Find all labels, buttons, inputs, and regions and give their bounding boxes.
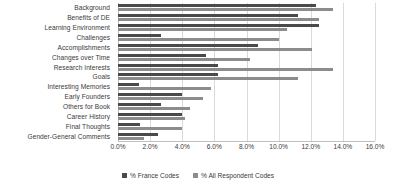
bar-france — [118, 14, 298, 17]
x-tick-label: 16.0% — [366, 143, 385, 150]
bar-row — [118, 23, 375, 33]
category-label: Early Founders — [0, 92, 114, 102]
category-label: Benefits of DE — [0, 13, 114, 23]
bar-france — [118, 103, 161, 106]
bar-row — [118, 13, 375, 23]
x-tick-label: 12.0% — [301, 143, 320, 150]
bar-all-respondents — [118, 87, 211, 90]
bar-row — [118, 131, 375, 141]
bar-france — [118, 113, 182, 116]
category-label: Challenges — [0, 33, 114, 43]
bar-all-respondents — [118, 58, 250, 61]
legend-label: % France Codes — [130, 172, 179, 179]
bar-all-respondents — [118, 127, 182, 130]
legend-item[interactable]: % All Respondent Codes — [193, 172, 274, 179]
bar-all-respondents — [118, 38, 279, 41]
category-label: Learning Environment — [0, 23, 114, 33]
category-axis-labels: BackgroundBenefits of DELearning Environ… — [0, 3, 114, 141]
bar-row — [118, 121, 375, 131]
plot-area — [118, 3, 375, 141]
chart-legend: % France Codes% All Respondent Codes — [0, 172, 396, 179]
bar-france — [118, 34, 161, 37]
bar-france — [118, 93, 182, 96]
gridline — [375, 3, 376, 141]
bar-row — [118, 82, 375, 92]
bar-france — [118, 4, 316, 7]
bar-france — [118, 123, 140, 126]
bar-france — [118, 64, 218, 67]
bar-france — [118, 83, 139, 86]
category-label: Accomplishments — [0, 42, 114, 52]
bar-row — [118, 3, 375, 13]
bar-france — [118, 24, 319, 27]
category-label: Interesting Memories — [0, 82, 114, 92]
bar-france — [118, 44, 258, 47]
x-tick-label: 6.0% — [207, 143, 222, 150]
category-label: Changes over Time — [0, 52, 114, 62]
category-label: Others for Book — [0, 102, 114, 112]
bar-row — [118, 102, 375, 112]
bar-rows — [118, 3, 375, 141]
category-label: Gender-General Comments — [0, 131, 114, 141]
category-label: Career History — [0, 111, 114, 121]
bar-france — [118, 54, 206, 57]
bar-row — [118, 33, 375, 43]
bar-all-respondents — [118, 77, 298, 80]
bar-chart: BackgroundBenefits of DELearning Environ… — [0, 0, 396, 195]
x-tick-label: 2.0% — [143, 143, 158, 150]
legend-item[interactable]: % France Codes — [122, 172, 179, 179]
bar-row — [118, 72, 375, 82]
x-tick-label: 4.0% — [175, 143, 190, 150]
legend-swatch — [122, 173, 127, 178]
bar-row — [118, 62, 375, 72]
x-axis-tick-labels: 0.0%2.0%4.0%6.0%8.0%10.0%12.0%14.0%16.0% — [118, 143, 375, 155]
category-label: Final Thoughts — [0, 121, 114, 131]
bar-row — [118, 111, 375, 121]
bar-all-respondents — [118, 18, 319, 21]
category-label: Research Interests — [0, 62, 114, 72]
x-tick-label: 10.0% — [269, 143, 288, 150]
bar-france — [118, 73, 218, 76]
bar-france — [118, 133, 158, 136]
bar-all-respondents — [118, 48, 312, 51]
bar-all-respondents — [118, 107, 190, 110]
x-axis-line — [118, 141, 375, 142]
bar-row — [118, 92, 375, 102]
x-tick-label: 14.0% — [334, 143, 353, 150]
legend-swatch — [193, 173, 198, 178]
bar-all-respondents — [118, 8, 333, 11]
legend-label: % All Respondent Codes — [201, 172, 274, 179]
category-label: Background — [0, 3, 114, 13]
bar-row — [118, 52, 375, 62]
bar-all-respondents — [118, 117, 185, 120]
category-label: Goals — [0, 72, 114, 82]
bar-row — [118, 42, 375, 52]
bar-all-respondents — [118, 137, 144, 140]
x-tick-label: 0.0% — [110, 143, 125, 150]
bar-all-respondents — [118, 68, 333, 71]
x-tick-label: 8.0% — [239, 143, 254, 150]
bar-all-respondents — [118, 97, 203, 100]
bar-all-respondents — [118, 28, 287, 31]
